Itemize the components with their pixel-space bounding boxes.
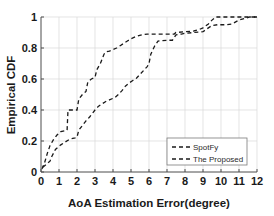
x-axis-title: AoA Estimation Error(degree) — [68, 197, 230, 209]
y-axis-title: Empirical CDF — [5, 56, 17, 135]
y-tick-label: 0.2 — [22, 135, 37, 147]
x-tick-label: 5 — [128, 175, 134, 187]
cdf-plot: 0123456789101112 00.20.40.60.81 AoA Esti… — [0, 0, 274, 216]
x-tick-label: 7 — [164, 175, 170, 187]
x-tick-label: 9 — [200, 175, 206, 187]
x-tick-label: 4 — [110, 175, 117, 187]
y-tick-label: 0.6 — [22, 73, 37, 85]
y-tick-label: 0.8 — [22, 42, 37, 54]
legend-label-1: The Proposed — [193, 155, 243, 164]
y-tick-label: 0 — [31, 166, 37, 178]
x-tick-label: 8 — [182, 175, 188, 187]
x-tick-label: 12 — [251, 175, 263, 187]
y-tick-label: 0.4 — [22, 104, 38, 116]
chart-figure: 0123456789101112 00.20.40.60.81 AoA Esti… — [0, 0, 274, 216]
chart-legend: SpotFyThe Proposed — [167, 138, 247, 165]
x-tick-label: 0 — [38, 175, 44, 187]
x-tick-label: 6 — [146, 175, 152, 187]
x-tick-label: 3 — [92, 175, 98, 187]
legend-label-0: SpotFy — [193, 143, 218, 152]
y-tick-label: 1 — [31, 11, 37, 23]
x-tick-label: 11 — [233, 175, 245, 187]
x-tick-label: 10 — [215, 175, 227, 187]
x-tick-label: 2 — [74, 175, 80, 187]
x-tick-label: 1 — [56, 175, 62, 187]
